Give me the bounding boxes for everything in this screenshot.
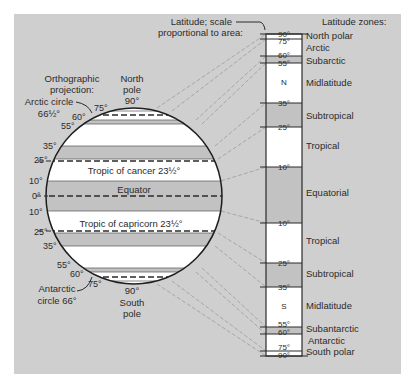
svg-text:10°: 10° <box>29 207 43 217</box>
arctic-circle-label-1: Arctic circle <box>25 96 74 107</box>
orthographic-title-line1: Orthographic <box>45 73 100 84</box>
zone-subtropical-s: Subtropical <box>306 268 354 279</box>
south-pole-label-1: 90° <box>125 285 140 296</box>
zones-title: Latitude zones: <box>322 16 386 27</box>
svg-text:55°: 55° <box>278 59 290 68</box>
north-pole-label-2: pole <box>123 84 141 95</box>
svg-text:75°: 75° <box>94 103 108 113</box>
svg-text:25°: 25° <box>34 155 48 165</box>
zone-north-polar: North polar <box>306 30 353 41</box>
zone-midlatitude-s: Midlatitude <box>306 300 352 311</box>
svg-text:35°: 35° <box>43 241 57 251</box>
svg-text:10°: 10° <box>278 219 290 228</box>
svg-text:75°: 75° <box>278 37 290 46</box>
scale-north-marker: N <box>281 78 287 87</box>
zone-subarctic: Subarctic <box>306 55 346 66</box>
latitude-zones-diagram: Tropic of cancer 23½° Equator Tropic of … <box>0 0 414 386</box>
svg-text:35°: 35° <box>43 141 57 151</box>
svg-text:55°: 55° <box>57 260 71 270</box>
orthographic-globe <box>36 108 230 284</box>
latitude-zone-labels: North polar Arctic Subarctic Midlatitude… <box>306 30 359 357</box>
orthographic-title-line2: projection: <box>50 84 94 95</box>
south-pole-label-2: South <box>120 297 145 308</box>
tropic-of-capricorn-label: Tropic of capricorn 23½° <box>79 218 182 229</box>
north-pole-label-3: 90° <box>125 95 140 106</box>
zone-midlatitude-n: Midlatitude <box>306 77 352 88</box>
north-pole-label-1: North <box>120 73 143 84</box>
svg-text:10°: 10° <box>278 163 290 172</box>
scale-south-marker: S <box>281 302 286 311</box>
svg-text:90°: 90° <box>278 351 290 360</box>
zone-equatorial: Equatorial <box>306 187 349 198</box>
antarctic-circle-label-2: circle 66° <box>37 295 76 306</box>
svg-text:25°: 25° <box>278 123 290 132</box>
tropic-of-cancer-label: Tropic of cancer 23½° <box>88 165 181 176</box>
south-pole-label-3: pole <box>123 308 141 319</box>
zone-south-polar: South polar <box>306 346 355 357</box>
svg-text:35°: 35° <box>278 99 290 108</box>
equator-label: Equator <box>117 184 150 195</box>
svg-text:0°: 0° <box>32 191 41 201</box>
svg-text:55°: 55° <box>61 121 75 131</box>
svg-text:35°: 35° <box>278 283 290 292</box>
svg-text:10°: 10° <box>29 176 43 186</box>
svg-text:75°: 75° <box>88 279 102 289</box>
svg-text:25°: 25° <box>278 259 290 268</box>
svg-text:60°: 60° <box>70 269 84 279</box>
zone-tropical-n: Tropical <box>306 140 339 151</box>
zone-subtropical-n: Subtropical <box>306 110 354 121</box>
antarctic-circle-label-1: Antarctic <box>39 283 76 294</box>
svg-text:25°: 25° <box>34 227 48 237</box>
svg-text:60°: 60° <box>278 328 290 337</box>
zone-subantarctic: Subantarctic <box>306 323 359 334</box>
zone-antarctic: Antarctic <box>308 335 345 346</box>
zone-arctic: Arctic <box>306 42 330 53</box>
scale-title-line1: Latitude; scale <box>171 16 232 27</box>
arctic-circle-label-2: 66½° <box>38 108 60 119</box>
scale-title-line2: proportional to area: <box>158 27 243 38</box>
zone-tropical-s: Tropical <box>306 235 339 246</box>
